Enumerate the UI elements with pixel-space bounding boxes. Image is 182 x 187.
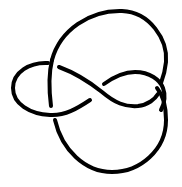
knot-diagram: [0, 0, 182, 187]
figure-eight-knot-icon: [0, 0, 182, 187]
knot-strand-outer-left: [50, 60, 52, 106]
